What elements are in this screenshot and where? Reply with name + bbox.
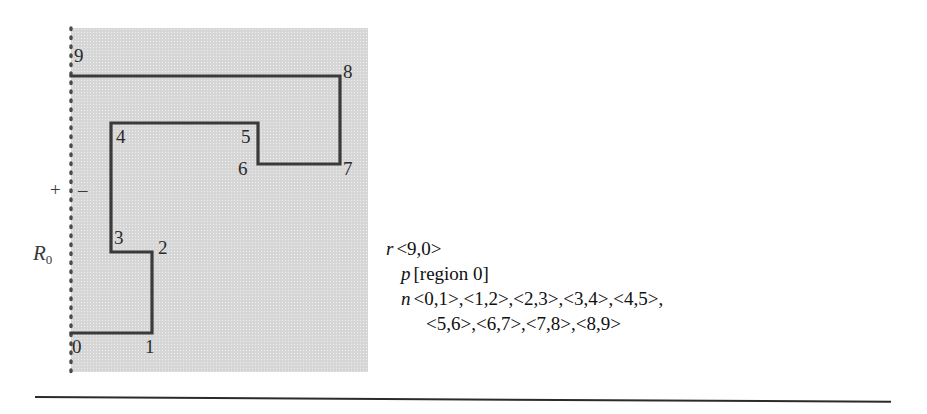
vertex-label-1: 1 bbox=[145, 337, 155, 356]
annotation-key-n: n bbox=[401, 288, 414, 309]
annotation-line-r: r<9,0> bbox=[386, 236, 906, 261]
polarity-plus-sign: + bbox=[50, 180, 61, 199]
region-label-r0: R0 bbox=[33, 243, 52, 270]
annotation-key-r: r bbox=[386, 238, 396, 259]
annotation-line-n: n<0,1>,<1,2>,<2,3>,<3,4>,<4,5>, bbox=[386, 286, 906, 311]
region-label-base: R bbox=[33, 241, 46, 265]
vertex-label-8: 8 bbox=[343, 62, 353, 81]
annotation-value-n: <0,1>,<1,2>,<2,3>,<3,4>,<4,5>, bbox=[414, 288, 664, 309]
vertex-label-6: 6 bbox=[238, 159, 248, 178]
vertex-label-4: 4 bbox=[116, 127, 126, 146]
boundary-representation-block: r<9,0> p[region 0] n<0,1>,<1,2>,<2,3>,<3… bbox=[386, 236, 906, 336]
annotation-value-r: <9,0> bbox=[396, 238, 441, 259]
polarity-minus-sign: – bbox=[78, 180, 88, 199]
vertex-label-9: 9 bbox=[74, 46, 84, 65]
annotation-value-p: [region 0] bbox=[414, 263, 489, 284]
vertex-label-0: 0 bbox=[72, 337, 82, 356]
vertex-label-3: 3 bbox=[114, 228, 124, 247]
annotation-line-n-cont: <5,6>,<6,7>,<7,8>,<8,9> bbox=[386, 311, 906, 336]
annotation-value-n-cont: <5,6>,<6,7>,<7,8>,<8,9> bbox=[426, 313, 621, 334]
figure-vector-layer bbox=[0, 0, 927, 414]
vertex-label-7: 7 bbox=[343, 159, 353, 178]
region-label-subscript: 0 bbox=[46, 252, 53, 267]
region-polygon-outline bbox=[71, 76, 340, 333]
figure-root: + – R0 0 1 2 3 4 5 6 7 8 9 r<9,0> p[regi… bbox=[0, 0, 927, 414]
vertex-label-2: 2 bbox=[158, 238, 168, 257]
vertex-label-5: 5 bbox=[241, 127, 251, 146]
annotation-key-p: p bbox=[401, 263, 414, 284]
annotation-line-p: p[region 0] bbox=[386, 261, 906, 286]
